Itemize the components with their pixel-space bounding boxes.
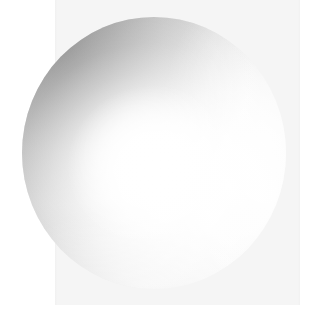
render-canvas	[0, 0, 314, 319]
shaded-sphere	[22, 17, 286, 289]
sphere-edge-falloff	[22, 17, 286, 289]
